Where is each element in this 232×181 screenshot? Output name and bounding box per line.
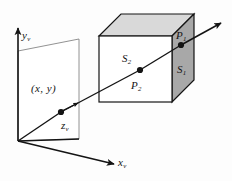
pixel-point-dot (58, 109, 64, 115)
point-p2-dot (137, 67, 143, 73)
surface-s1-label: S1 (177, 64, 186, 75)
ray-tracing-viewing-diagram: yv xv zv (x, y) S2 S1 P2 P1 (0, 0, 232, 181)
y-axis-label: yv (22, 30, 30, 41)
z-axis-label: zv (61, 120, 69, 131)
surface-s2-label: S2 (122, 53, 131, 64)
cube-front-face (99, 36, 172, 102)
x-axis-label: xv (118, 157, 126, 168)
pixel-coordinate-label: (x, y) (31, 83, 56, 94)
point-p1-dot (178, 42, 184, 48)
cube-object (99, 14, 194, 102)
point-p1-label: P1 (176, 30, 186, 41)
point-p2-label: P2 (131, 80, 141, 91)
x-axis (18, 141, 114, 164)
